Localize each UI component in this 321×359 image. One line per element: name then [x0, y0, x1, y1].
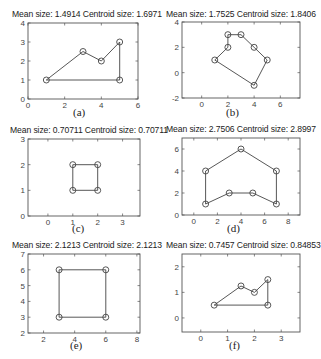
panel-label: (f)	[229, 339, 240, 351]
x-tick-label: 3	[279, 334, 284, 343]
axes-box	[182, 254, 300, 332]
x-tick-label: 0	[199, 334, 204, 343]
y-tick-label: 1	[175, 288, 180, 297]
x-tick-label: 2	[252, 334, 257, 343]
y-tick-label: 2	[175, 263, 180, 272]
y-tick-label: 0	[175, 314, 180, 323]
